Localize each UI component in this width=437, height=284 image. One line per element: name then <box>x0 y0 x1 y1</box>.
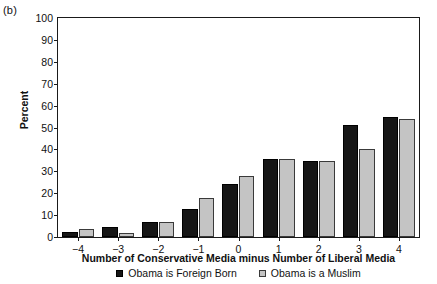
bar-group <box>379 18 419 237</box>
bar-obama-foreign-born <box>222 184 238 237</box>
bar-obama-is-muslim <box>319 161 335 237</box>
x-axis-title: Number of Conservative Media minus Numbe… <box>57 252 420 264</box>
bar-obama-is-muslim <box>239 176 255 237</box>
bar-obama-foreign-born <box>142 222 158 237</box>
bar-obama-foreign-born <box>263 159 279 237</box>
bar-obama-is-muslim <box>119 233 135 237</box>
x-axis-tick-mark <box>319 237 320 241</box>
legend-item: Obama is Foreign Born <box>116 267 237 279</box>
x-axis-tick-mark <box>118 237 119 241</box>
bar-obama-foreign-born <box>343 125 359 237</box>
x-axis-tick-mark <box>158 237 159 241</box>
bar-obama-is-muslim <box>399 119 415 237</box>
bar-obama-foreign-born <box>182 209 198 237</box>
bar-group <box>259 18 299 237</box>
bar-group <box>178 18 218 237</box>
panel-label: (b) <box>3 4 17 16</box>
bar-obama-is-muslim <box>159 222 175 237</box>
bar-obama-foreign-born <box>303 161 319 237</box>
bar-obama-is-muslim <box>79 229 95 237</box>
y-axis-tick-label: 40 <box>41 144 53 155</box>
bar-group <box>98 18 138 237</box>
bar-obama-foreign-born <box>102 227 118 237</box>
chart-legend: Obama is Foreign BornObama is a Muslim <box>57 267 420 279</box>
y-axis-tick-label: 70 <box>41 78 53 89</box>
x-axis-tick-mark <box>198 237 199 241</box>
y-axis-tick-label: 30 <box>41 166 53 177</box>
y-axis-tick-mark <box>54 237 58 238</box>
legend-swatch-icon <box>259 270 266 277</box>
x-axis-tick-mark <box>279 237 280 241</box>
bar-obama-foreign-born <box>383 117 399 237</box>
x-axis-tick-mark <box>359 237 360 241</box>
legend-label: Obama is Foreign Born <box>128 267 237 279</box>
y-axis-title: Percent <box>18 70 30 150</box>
bar-obama-foreign-born <box>62 232 78 237</box>
x-axis-tick-mark <box>239 237 240 241</box>
y-axis-tick-label: 90 <box>41 35 53 46</box>
bar-group <box>218 18 258 237</box>
x-axis-tick-mark <box>399 237 400 241</box>
legend-item: Obama is a Muslim <box>259 267 361 279</box>
y-axis-tick-label: 0 <box>47 232 53 243</box>
bar-group <box>58 18 98 237</box>
legend-label: Obama is a Muslim <box>271 267 361 279</box>
chart-figure: (b) Percent 0102030405060708090100−4−3−2… <box>0 0 437 284</box>
x-axis-tick-mark <box>78 237 79 241</box>
bar-obama-is-muslim <box>279 159 295 237</box>
y-axis-tick-label: 100 <box>35 13 53 24</box>
bar-obama-is-muslim <box>359 149 375 237</box>
y-axis-tick-label: 60 <box>41 100 53 111</box>
legend-swatch-icon <box>116 270 123 277</box>
y-axis-tick-label: 20 <box>41 188 53 199</box>
bar-obama-is-muslim <box>199 198 215 237</box>
y-axis-tick-label: 50 <box>41 122 53 133</box>
bar-group <box>299 18 339 237</box>
y-axis-tick-label: 10 <box>41 210 53 221</box>
plot-area: 0102030405060708090100−4−3−2−101234 <box>57 17 420 238</box>
bar-group <box>138 18 178 237</box>
bar-group <box>339 18 379 237</box>
y-axis-tick-label: 80 <box>41 57 53 68</box>
